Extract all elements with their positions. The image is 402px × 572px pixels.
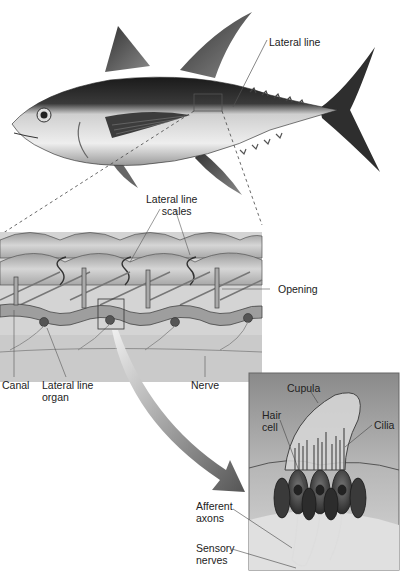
label-lateral-line-scales: Lateral line scales (146, 193, 197, 217)
label-hair-cell: Hair cell (262, 409, 281, 433)
label-lateral-line: Lateral line (269, 36, 320, 48)
fish-illustration (12, 12, 380, 195)
label-lateral-line-organ: Lateral line organ (42, 379, 93, 403)
dorsal-fin (105, 26, 150, 72)
label-nerve: Nerve (191, 379, 219, 391)
label-canal: Canal (2, 379, 29, 391)
fish-body (12, 77, 338, 165)
anal-fin (195, 150, 242, 195)
label-cilia: Cilia (374, 419, 394, 431)
label-afferent-axons: Afferent axons (196, 500, 233, 524)
second-dorsal-fin (180, 12, 252, 78)
label-cupula: Cupula (287, 382, 320, 394)
label-sensory-nerves: Sensory nerves (196, 542, 235, 566)
scale-cross-section (0, 209, 270, 382)
diagram-canvas (0, 0, 402, 572)
label-opening: Opening (278, 283, 318, 295)
neuromast-inset (232, 373, 399, 570)
